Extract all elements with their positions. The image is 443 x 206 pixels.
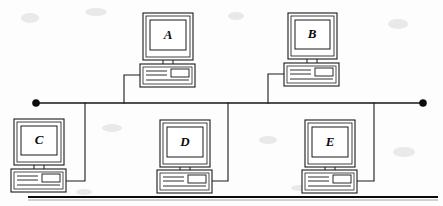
node-label-a: A <box>163 27 173 42</box>
scan-noise <box>21 8 415 195</box>
left-terminator-icon <box>32 99 39 106</box>
base-drive-bay-d <box>188 175 206 183</box>
right-terminator-icon <box>419 99 426 106</box>
node-d[interactable]: D <box>157 120 212 193</box>
network-topology-figure: A B <box>0 0 443 206</box>
drop-line-b <box>268 74 284 103</box>
base-drive-bay-c <box>42 174 60 182</box>
bus-backbone <box>32 99 426 106</box>
base-drive-bay-a <box>171 69 189 77</box>
base-drive-bay-e <box>333 175 351 183</box>
drop-line-a <box>124 75 140 103</box>
drop-line-c <box>66 103 85 181</box>
base-drive-bay-b <box>315 68 333 76</box>
node-a[interactable]: A <box>140 13 195 87</box>
node-b[interactable]: B <box>284 13 339 86</box>
node-c[interactable]: C <box>11 119 66 192</box>
node-label-c: C <box>35 132 44 147</box>
drop-line-e <box>357 103 374 181</box>
node-label-d: D <box>179 134 190 149</box>
node-label-e: E <box>325 134 335 149</box>
bottom-rules <box>28 197 438 200</box>
node-e[interactable]: E <box>302 120 357 193</box>
node-label-b: B <box>307 26 317 41</box>
topology-canvas: A B <box>0 0 443 206</box>
drop-line-d <box>212 103 228 181</box>
